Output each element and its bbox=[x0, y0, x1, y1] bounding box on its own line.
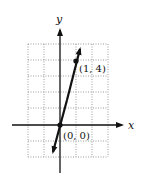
point-label-origin: (0, 0) bbox=[63, 130, 90, 141]
point-origin bbox=[57, 122, 62, 127]
point-1-4 bbox=[73, 58, 78, 63]
point-label-1-4: (1, 4) bbox=[79, 63, 106, 74]
x-axis-label: x bbox=[128, 119, 135, 132]
coordinate-plane: x y (1, 4) (0, 0) bbox=[0, 0, 142, 177]
y-axis-label: y bbox=[55, 13, 63, 26]
